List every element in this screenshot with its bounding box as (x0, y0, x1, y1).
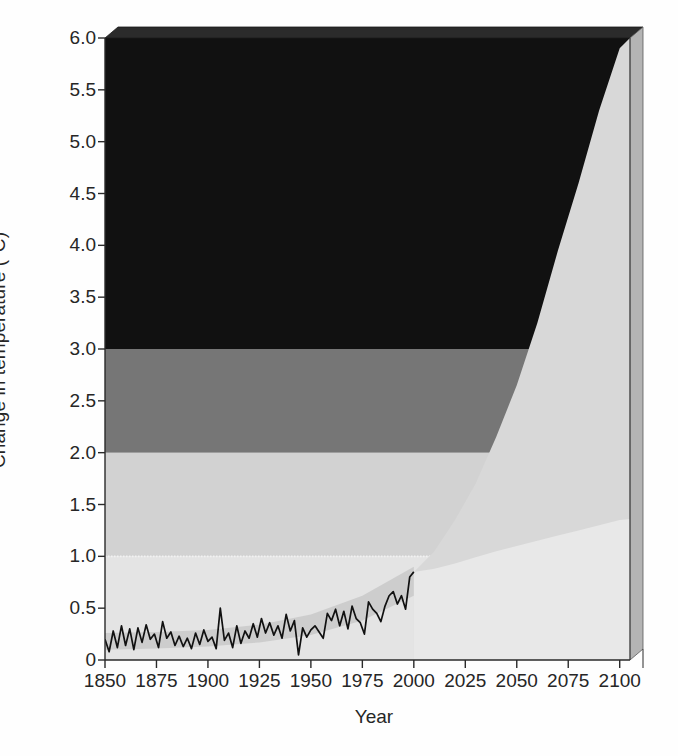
panel-right-face (630, 27, 643, 660)
plot-area (0, 0, 678, 756)
panel-top-face (105, 27, 643, 38)
chart-figure: Change in temperature (°C) Year 00.51.01… (0, 0, 678, 756)
